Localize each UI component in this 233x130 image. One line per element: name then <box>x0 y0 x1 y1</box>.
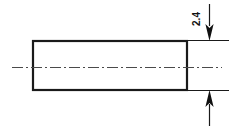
dimension-value-label: 2.4 <box>192 12 202 26</box>
rectangular-body <box>33 41 187 90</box>
upper-dimension-arrowhead <box>205 24 213 41</box>
technical-drawing-canvas: 2.4 <box>0 0 233 130</box>
